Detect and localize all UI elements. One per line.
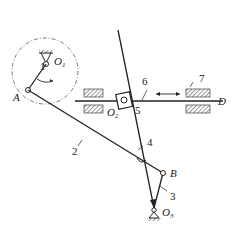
- link-3: [154, 173, 163, 208]
- label-o3: O3: [162, 207, 173, 220]
- pivot-o2: [121, 97, 127, 103]
- mechanism-diagram: 1 O1 A O2 5 6 7 D 2 4 B 3 O3: [0, 0, 237, 234]
- label-5: 5: [135, 105, 141, 116]
- label-o1: O1: [54, 56, 65, 69]
- label-3: 3: [170, 191, 176, 202]
- guide-7-top: [186, 89, 210, 97]
- diagram-svg: [0, 0, 237, 234]
- label-d: D: [218, 96, 226, 107]
- joint-b: [161, 171, 166, 176]
- label-4: 4: [147, 137, 153, 148]
- link-4: [118, 30, 154, 208]
- guide-7-bottom: [186, 105, 210, 113]
- link-2: [28, 90, 163, 173]
- label-o2: O2: [107, 107, 118, 120]
- label-b: B: [170, 168, 177, 179]
- guide-left-bottom: [84, 105, 103, 113]
- label-6: 6: [142, 76, 148, 87]
- label-a: A: [13, 92, 20, 103]
- label-1: 1: [40, 61, 46, 72]
- guide-left-top: [84, 89, 103, 97]
- label-7: 7: [199, 73, 205, 84]
- ground-o3-icon: [147, 212, 161, 221]
- label-2: 2: [72, 146, 78, 157]
